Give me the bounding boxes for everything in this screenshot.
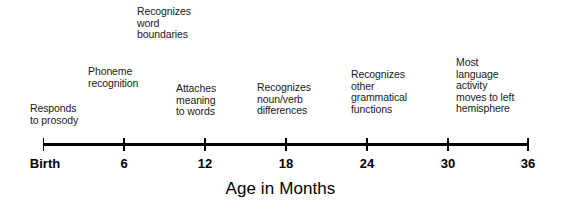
milestone-label-left-hemisphere: Most language activity moves to left hem… <box>456 57 514 115</box>
milestone-label-phoneme-recognition: Phoneme recognition <box>88 66 138 89</box>
language-development-timeline-figure: Responds to prosody Phoneme recognition … <box>0 0 561 210</box>
milestone-label-attaches-meaning: Attaches meaning to words <box>176 83 216 118</box>
milestone-label-responds-to-prosody: Responds to prosody <box>30 103 78 126</box>
milestone-label-grammatical-functions: Recognizes other grammatical functions <box>351 69 407 115</box>
axis-tick-label-30: 30 <box>441 156 455 171</box>
axis-tick-label-18: 18 <box>279 156 293 171</box>
axis-tick-6 <box>123 138 125 151</box>
axis-line <box>43 143 528 146</box>
axis-tick-label-birth: Birth <box>30 156 60 171</box>
milestone-label-noun-verb-differences: Recognizes noun/verb differences <box>257 82 311 117</box>
axis-tick-label-6: 6 <box>120 156 127 171</box>
axis-tick-30 <box>447 138 449 151</box>
axis-tick-birth <box>43 138 45 151</box>
axis-tick-label-36: 36 <box>521 156 535 171</box>
axis-tick-24 <box>366 138 368 151</box>
axis-title: Age in Months <box>0 179 561 199</box>
milestone-label-word-boundaries: Recognizes word boundaries <box>137 6 191 41</box>
axis-tick-label-12: 12 <box>198 156 212 171</box>
axis-tick-label-24: 24 <box>360 156 374 171</box>
axis-tick-18 <box>285 138 287 151</box>
axis-tick-12 <box>204 138 206 151</box>
axis-tick-36 <box>527 138 529 151</box>
